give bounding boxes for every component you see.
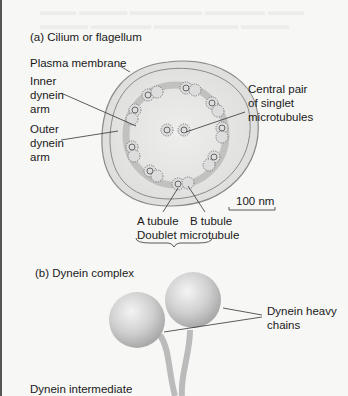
label-inner-dynein-arm: Inner dynein arm xyxy=(30,74,64,116)
label-doublet-microtubule: Doublet microtubule xyxy=(137,228,239,242)
label-outer-dynein-arm: Outer dynein arm xyxy=(30,122,64,164)
label-dynein-intermediate: Dynein intermediate xyxy=(30,382,132,396)
panel-b-title: (b) Dynein complex xyxy=(35,266,134,280)
label-dynein-heavy-chains: Dynein heavy chains xyxy=(267,304,337,332)
label-central-pair: Central pair of singlet microtubules xyxy=(248,82,313,124)
label-a-tubule: A tubule xyxy=(137,214,179,228)
panel-a-title: (a) Cilium or flagellum xyxy=(30,30,142,44)
label-plasma-membrane: Plasma membrane xyxy=(30,56,127,70)
label-b-tubule: B tubule xyxy=(190,214,232,228)
dynein-complex xyxy=(109,272,221,396)
label-scale-bar: 100 nm xyxy=(236,194,274,208)
axoneme-cross-section xyxy=(102,61,258,206)
